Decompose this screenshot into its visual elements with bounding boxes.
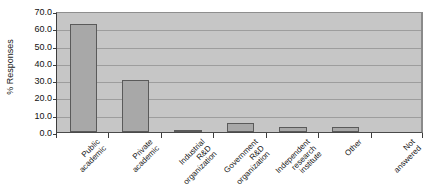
y-axis-tick [53, 13, 57, 14]
y-axis-tick-label: 60.0 [34, 24, 52, 34]
y-axis-tick-label: 20.0 [34, 93, 52, 103]
chart-screenshot: % Responses 0.010.020.030.040.050.060.07… [0, 0, 431, 190]
bar [122, 80, 149, 132]
y-axis-tick [53, 117, 57, 118]
x-axis-category-label: Notanswered [386, 138, 423, 175]
bar [279, 127, 306, 132]
y-axis-title-text: % Responses [5, 39, 15, 95]
y-axis-tick [53, 30, 57, 31]
x-axis-category-label: GovernmentR&Dorganization [222, 138, 271, 187]
bars-container [57, 13, 421, 132]
bar [227, 123, 254, 132]
x-axis-category-label: Other [344, 138, 364, 158]
x-axis-category-labels: PublicacademicPrivateacademicIndustrialR… [56, 138, 423, 190]
y-axis-tick-label: 40.0 [34, 59, 52, 69]
x-axis-category-label: IndustrialR&Dorganization [170, 138, 219, 187]
y-axis-tick [53, 99, 57, 100]
plot-area [56, 12, 423, 133]
y-axis-tick-label: 0.0 [39, 128, 52, 138]
y-axis-tick-label: 10.0 [34, 111, 52, 121]
y-axis-tick [53, 82, 57, 83]
y-axis-tick-label: 50.0 [34, 42, 52, 52]
x-axis-category-label: Privateacademic [124, 138, 160, 174]
x-axis-category-label-line: Other [344, 138, 364, 158]
y-axis-tick-label: 70.0 [34, 7, 52, 17]
y-axis-tick-labels: 0.010.020.030.040.050.060.070.0 [18, 8, 54, 133]
y-axis-tick-label: 30.0 [34, 76, 52, 86]
y-axis-title: % Responses [0, 0, 20, 133]
y-axis-tick [53, 65, 57, 66]
y-axis-tick [53, 48, 57, 49]
bar [332, 127, 359, 132]
x-axis-category-label: Independentresearchinstitute [274, 138, 323, 187]
bar [70, 24, 97, 132]
bar [174, 130, 201, 132]
x-axis-category-label: Publicacademic [72, 138, 108, 174]
